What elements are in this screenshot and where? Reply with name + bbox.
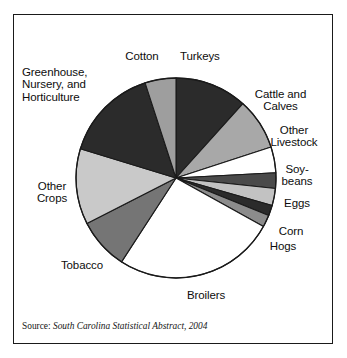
pie-label-greenhouse-nursery-horticulture: Greenhouse,Nursery, andHorticulture	[22, 66, 87, 103]
greenhouse-line-2: Nursery, and	[22, 78, 86, 90]
cattle-line-1: Cattle and	[255, 88, 306, 100]
cattle-line-2: Calves	[263, 100, 298, 112]
source-label: Source:	[22, 321, 51, 331]
pie-label-soybeans: Soy-beans	[262, 163, 332, 188]
livestock-line-2: Livestock	[270, 136, 317, 148]
pie-label-eggs: Eggs	[262, 197, 332, 209]
greenhouse-line-3: Horticulture	[22, 91, 80, 103]
source-title: South Carolina Statistical Abstract, 200…	[53, 321, 207, 331]
pie-label-cattle-and-calves: Cattle andCalves	[243, 88, 318, 113]
pie-label-other-livestock: OtherLivestock	[253, 124, 335, 149]
othercrops-line-1: Other	[38, 180, 66, 192]
othercrops-line-2: Crops	[37, 192, 67, 204]
livestock-line-1: Other	[280, 124, 308, 136]
pie-chart-figure: Greenhouse,Nursery, andHorticulture Cott…	[0, 0, 347, 358]
pie-label-other-crops: OtherCrops	[22, 180, 82, 205]
pie-label-cotton: Cotton	[112, 50, 172, 62]
pie-label-broilers: Broilers	[168, 289, 244, 301]
greenhouse-line-1: Greenhouse,	[22, 66, 87, 78]
pie-label-corn: Corn	[258, 225, 324, 237]
soybeans-line-1: Soy-	[285, 163, 308, 175]
pie-label-hogs: Hogs	[250, 240, 316, 252]
soybeans-line-2: beans	[282, 175, 313, 187]
pie-label-turkeys: Turkeys	[180, 50, 242, 62]
source-note: Source: South Carolina Statistical Abstr…	[22, 321, 207, 331]
pie-label-tobacco: Tobacco	[46, 259, 118, 271]
